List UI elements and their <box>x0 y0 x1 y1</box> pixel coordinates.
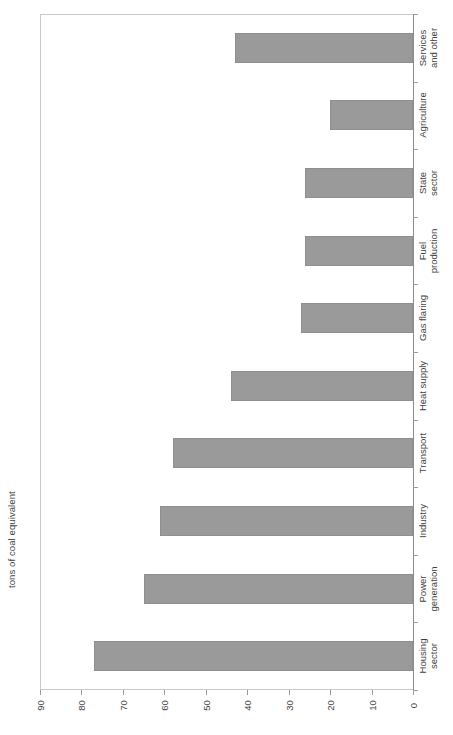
bar-services-and-other <box>235 33 413 63</box>
axis-tick-label: 80 <box>76 694 87 718</box>
bars-container <box>0 14 453 690</box>
axis-tick-label: 10 <box>366 694 377 718</box>
axis-tick-label: 60 <box>159 694 170 718</box>
bar-heat-supply <box>231 371 413 401</box>
axis-tick-label: 40 <box>242 694 253 718</box>
axis-tick-label: 70 <box>117 694 128 718</box>
axis-tick-label: 20 <box>325 694 336 718</box>
axis-tick-label: 0 <box>408 694 419 718</box>
category-label-services-and-other: Services and other <box>418 3 439 93</box>
bar-transport <box>173 438 413 468</box>
bar-chart: tons of coal equivalent Housing sectorPo… <box>0 0 453 735</box>
bar-state-sector <box>305 168 413 198</box>
bar-agriculture <box>330 100 413 130</box>
bar-gas-flaring <box>301 303 413 333</box>
bar-housing-sector <box>94 641 413 671</box>
axis-tick-label: 90 <box>35 694 46 718</box>
axis-tick-label: 50 <box>200 694 211 718</box>
bar-power-generation <box>144 574 413 604</box>
bar-industry <box>160 506 413 536</box>
bar-fuel-production <box>305 236 413 266</box>
axis-tick-label: 30 <box>283 694 294 718</box>
